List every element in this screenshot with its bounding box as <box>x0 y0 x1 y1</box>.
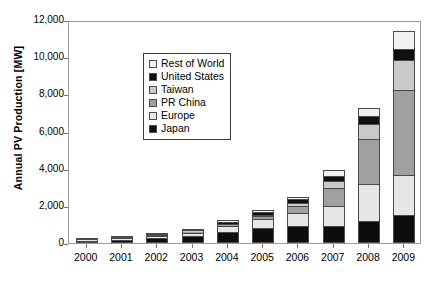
chart-legend: Rest of WorldUnited StatesTaiwanPR China… <box>143 53 231 140</box>
y-tick-label: 0 <box>6 237 64 248</box>
bar-segment-japan <box>76 241 98 243</box>
y-tick-mark <box>64 244 68 245</box>
bar-segment-united-states <box>287 199 309 203</box>
x-tick-mark <box>262 244 263 248</box>
plot-area: Rest of WorldUnited StatesTaiwanPR China… <box>68 21 421 244</box>
legend-swatch-icon <box>149 112 157 120</box>
bar-segment-rest-of-world <box>323 170 345 176</box>
bar-segment-rest-of-world <box>217 220 239 221</box>
bar-segment-taiwan <box>393 60 415 90</box>
y-tick-label: 8,000 <box>6 88 64 99</box>
bar-segment-taiwan <box>358 124 380 139</box>
legend-swatch-icon <box>149 86 157 94</box>
bar-segment-united-states <box>358 116 380 124</box>
bar-segment-united-states <box>393 49 415 60</box>
bar-segment-europe <box>252 219 274 228</box>
bar-segment-rest-of-world <box>287 197 309 199</box>
bar-segment-japan <box>252 228 274 243</box>
bar-segment-pr-china <box>182 231 204 232</box>
y-axis-title: Annual PV Production [MW] <box>12 8 24 228</box>
bar-segment-japan <box>217 232 239 243</box>
bar-segment-japan <box>358 221 380 243</box>
legend-swatch-icon <box>149 125 157 133</box>
bar-2009 <box>393 22 415 243</box>
bar-segment-japan <box>393 215 415 243</box>
bar-segment-europe <box>76 239 98 240</box>
bar-segment-japan <box>182 236 204 243</box>
bar-segment-japan <box>111 240 133 243</box>
legend-item-united-states[interactable]: United States <box>149 70 224 83</box>
legend-item-japan[interactable]: Japan <box>149 122 224 135</box>
bar-segment-pr-china <box>323 188 345 207</box>
bar-segment-europe <box>146 236 168 239</box>
bar-segment-pr-china <box>252 216 274 219</box>
bar-segment-rest-of-world <box>393 31 415 50</box>
legend-item-europe[interactable]: Europe <box>149 109 224 122</box>
bar-segment-europe <box>358 184 380 220</box>
bar-segment-rest-of-world <box>146 233 168 234</box>
x-tick-mark <box>192 244 193 248</box>
bar-segment-japan <box>146 238 168 243</box>
bar-segment-rest-of-world <box>111 236 133 237</box>
x-tick-mark <box>227 244 228 248</box>
x-tick-mark <box>121 244 122 248</box>
bar-segment-rest-of-world <box>182 229 204 230</box>
bar-segment-taiwan <box>287 203 309 206</box>
y-tick-label: 4,000 <box>6 163 64 174</box>
legend-item-label: United States <box>161 71 224 82</box>
bar-segment-europe <box>217 226 239 232</box>
bar-segment-pr-china <box>358 139 380 185</box>
legend-swatch-icon <box>149 99 157 107</box>
bar-2001 <box>111 22 133 243</box>
y-tick-label: 6,000 <box>6 126 64 137</box>
pv-production-chart: Annual PV Production [MW] 02,0004,0006,0… <box>0 0 437 281</box>
legend-item-label: Japan <box>161 123 190 134</box>
legend-item-pr-china[interactable]: PR China <box>149 96 224 109</box>
bar-2007 <box>323 22 345 243</box>
bar-segment-europe <box>287 213 309 226</box>
bar-segment-japan <box>323 226 345 243</box>
legend-item-label: PR China <box>161 97 206 108</box>
y-tick-label: 10,000 <box>6 51 64 62</box>
bar-segment-pr-china <box>217 224 239 225</box>
bar-segment-europe <box>111 238 133 240</box>
y-tick-label: 12,000 <box>6 14 64 25</box>
bar-segment-rest-of-world <box>252 210 274 211</box>
bar-segment-europe <box>323 206 345 226</box>
bar-2000 <box>76 22 98 243</box>
x-tick-mark <box>86 244 87 248</box>
bar-2006 <box>287 22 309 243</box>
bar-segment-united-states <box>323 176 345 181</box>
legend-item-taiwan[interactable]: Taiwan <box>149 83 224 96</box>
legend-swatch-icon <box>149 60 157 68</box>
legend-item-rest-of-world[interactable]: Rest of World <box>149 57 224 70</box>
x-tick-mark <box>333 244 334 248</box>
legend-swatch-icon <box>149 73 157 81</box>
legend-item-label: Rest of World <box>161 58 224 69</box>
bar-segment-japan <box>287 226 309 243</box>
legend-item-label: Europe <box>161 110 195 121</box>
x-tick-label: 2009 <box>379 251 427 263</box>
bar-segment-pr-china <box>393 90 415 175</box>
bar-2008 <box>358 22 380 243</box>
x-tick-mark <box>297 244 298 248</box>
bar-segment-united-states <box>252 212 274 215</box>
legend-item-label: Taiwan <box>161 84 194 95</box>
y-tick-label: 2,000 <box>6 200 64 211</box>
bar-segment-united-states <box>182 230 204 231</box>
bar-segment-europe <box>182 233 204 237</box>
x-tick-mark <box>403 244 404 248</box>
bar-segment-pr-china <box>287 206 309 213</box>
x-tick-mark <box>156 244 157 248</box>
bar-segment-rest-of-world <box>76 238 98 239</box>
bar-segment-united-states <box>217 222 239 224</box>
bar-2005 <box>252 22 274 243</box>
x-tick-mark <box>368 244 369 248</box>
bar-segment-taiwan <box>252 215 274 216</box>
bar-segment-europe <box>393 175 415 215</box>
bar-segment-rest-of-world <box>358 108 380 116</box>
bar-segment-taiwan <box>323 181 345 188</box>
